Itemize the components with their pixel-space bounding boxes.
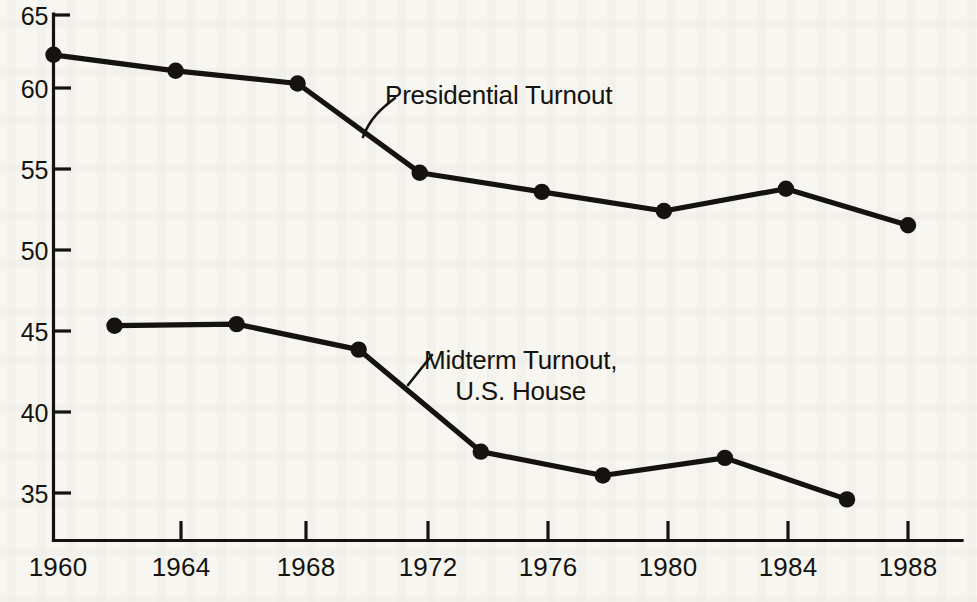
x-tick-label-1988: 1988 — [853, 552, 963, 583]
y-tick-label-55: 55 — [2, 156, 48, 185]
data-point — [595, 467, 611, 483]
midterm-series-label: Midterm Turnout, U.S. House — [424, 345, 617, 407]
data-point — [351, 341, 367, 357]
data-point — [228, 316, 244, 332]
data-point — [717, 450, 733, 466]
y-tick-label-60: 60 — [2, 75, 48, 104]
x-tick-label-1984: 1984 — [733, 552, 843, 583]
data-point — [45, 47, 61, 63]
data-point — [473, 443, 489, 459]
x-tick-label-1964: 1964 — [126, 552, 236, 583]
y-tick-label-50: 50 — [2, 237, 48, 266]
data-point — [900, 217, 916, 233]
y-tick-label-35: 35 — [2, 480, 48, 509]
midterm-series-label-line1: Midterm Turnout, — [424, 345, 617, 375]
x-tick-label-1972: 1972 — [373, 552, 483, 583]
data-point — [839, 491, 855, 507]
data-point — [656, 203, 672, 219]
series-layer — [45, 47, 916, 508]
x-tick-label-1976: 1976 — [493, 552, 603, 583]
x-tick-label-1960: 1960 — [3, 552, 113, 583]
y-tick-label-65: 65 — [2, 2, 48, 31]
data-point — [289, 75, 305, 91]
data-point — [412, 165, 428, 181]
data-point — [106, 318, 122, 334]
data-point — [534, 184, 550, 200]
x-tick-label-1980: 1980 — [613, 552, 723, 583]
chart-page: 65 60 55 50 45 40 35 1960 1964 1968 1972… — [0, 0, 977, 602]
data-point — [167, 63, 183, 79]
midterm-series-label-line2: U.S. House — [424, 376, 617, 407]
presidential-series-label: Presidential Turnout — [385, 80, 612, 111]
presidential-series-label-line1: Presidential Turnout — [385, 80, 612, 110]
y-tick-label-45: 45 — [2, 318, 48, 347]
data-point — [778, 181, 794, 197]
y-tick-label-40: 40 — [2, 399, 48, 428]
x-tick-label-1968: 1968 — [251, 552, 361, 583]
